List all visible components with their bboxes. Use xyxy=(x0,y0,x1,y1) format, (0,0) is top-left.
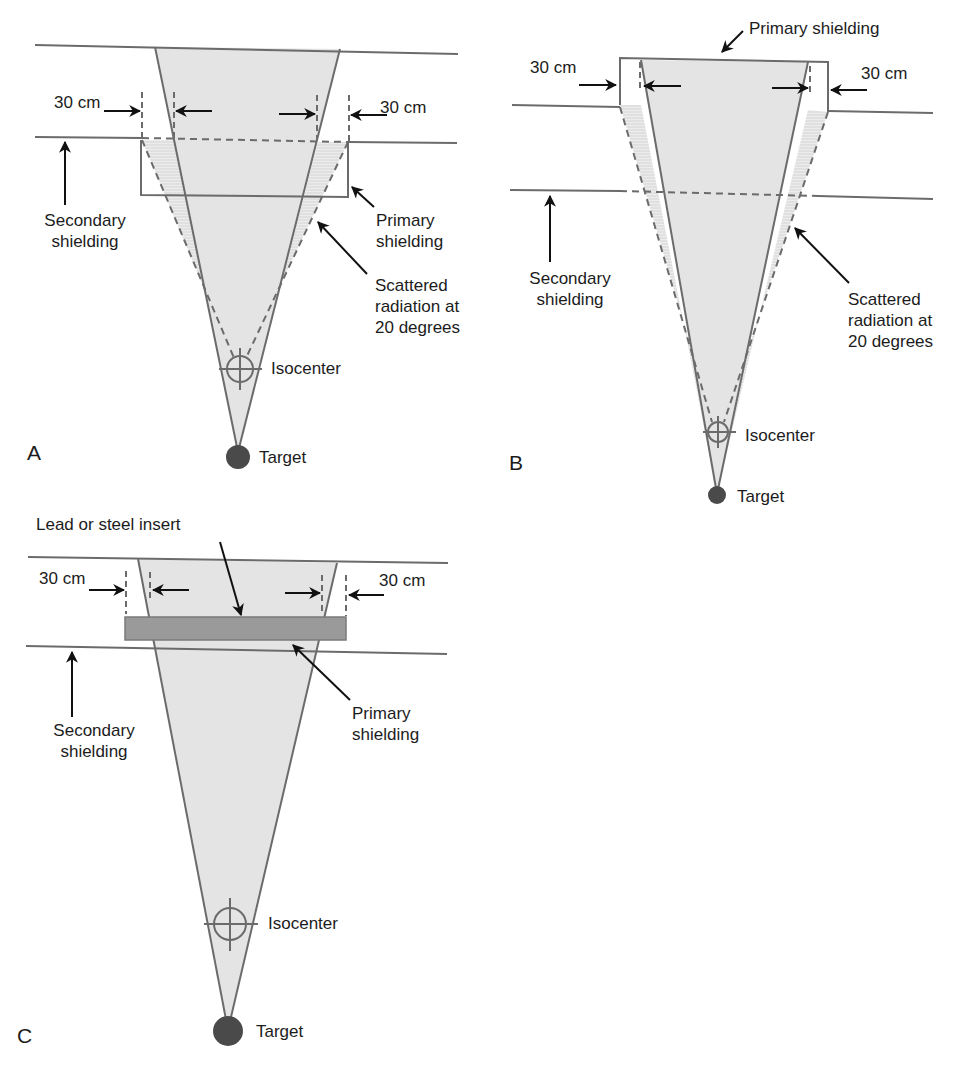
secondary-shielding-label: Secondary shielding xyxy=(38,720,150,762)
secondary-shielding-line-right xyxy=(348,142,457,143)
panel-letter-c: C xyxy=(17,1024,32,1048)
label-line: shielding xyxy=(352,724,419,745)
panel-letter-b: B xyxy=(509,451,523,475)
arrow-icon xyxy=(352,187,374,207)
margin-label-right: 30 cm xyxy=(379,570,425,591)
target-label: Target xyxy=(256,1021,303,1042)
primary-shielding-label: Primary shielding xyxy=(352,703,419,745)
label-line: Primary xyxy=(352,703,419,724)
primary-shielding-label: Primary shielding xyxy=(376,210,443,252)
arrow-icon xyxy=(795,228,849,283)
label-line: Scattered xyxy=(375,275,460,296)
lower-wall-line-left xyxy=(510,190,620,191)
isocenter-label: Isocenter xyxy=(268,913,338,934)
panel-c xyxy=(26,542,448,1046)
label-line: Scattered xyxy=(848,289,933,310)
secondary-shielding-line-right xyxy=(828,111,933,113)
target-icon xyxy=(708,486,726,504)
label-line: Primary xyxy=(376,210,443,231)
target-label: Target xyxy=(259,447,306,468)
scattered-radiation-label: Scattered radiation at 20 degrees xyxy=(848,289,933,352)
lower-wall-line-right xyxy=(818,196,933,199)
label-line: radiation at xyxy=(848,310,933,331)
margin-label-right: 30 cm xyxy=(380,97,426,118)
secondary-shielding-label: Secondary shielding xyxy=(515,268,625,310)
label-line: shielding xyxy=(30,231,140,252)
label-line: shielding xyxy=(515,289,625,310)
label-line: 20 degrees xyxy=(375,317,460,338)
target-icon xyxy=(226,445,250,469)
label-line: Secondary xyxy=(515,268,625,289)
isocenter-label: Isocenter xyxy=(745,425,815,446)
label-line: shielding xyxy=(376,231,443,252)
scattered-radiation-label: Scattered radiation at 20 degrees xyxy=(375,275,460,338)
target-label: Target xyxy=(737,486,784,507)
panel-letter-a: A xyxy=(27,441,41,465)
margin-label-left: 30 cm xyxy=(530,57,576,78)
label-line: Secondary xyxy=(30,210,140,231)
label-line: 20 degrees xyxy=(848,331,933,352)
label-line: Secondary xyxy=(38,720,150,741)
label-line: radiation at xyxy=(375,296,460,317)
beam xyxy=(155,47,340,452)
arrow-icon xyxy=(318,222,367,274)
secondary-shielding-line-left xyxy=(35,137,142,138)
isocenter-label: Isocenter xyxy=(271,358,341,379)
secondary-shielding-line-left xyxy=(512,105,620,107)
primary-shielding-label: Primary shielding xyxy=(749,18,879,39)
insert-label: Lead or steel insert xyxy=(36,514,181,535)
label-line: shielding xyxy=(38,741,150,762)
margin-label-right: 30 cm xyxy=(861,63,907,84)
margin-label-left: 30 cm xyxy=(39,568,85,589)
target-icon xyxy=(213,1016,243,1046)
margin-label-left: 30 cm xyxy=(54,92,100,113)
arrow-icon xyxy=(722,31,743,52)
secondary-shielding-label: Secondary shielding xyxy=(30,210,140,252)
lead-steel-insert xyxy=(125,617,346,640)
